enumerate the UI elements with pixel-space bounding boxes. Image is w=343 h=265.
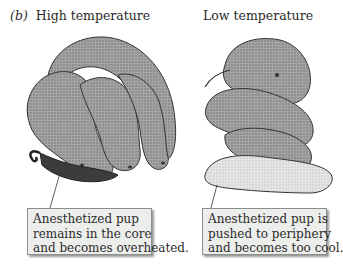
panel-title-high-temperature: (b) High temperature: [10, 8, 150, 23]
high-temperature-title: High temperature: [36, 8, 150, 23]
callout-line: Anesthetized pup: [33, 212, 147, 227]
panel-title-low-temperature: Low temperature: [203, 8, 313, 23]
low-temperature-title: Low temperature: [203, 8, 313, 23]
callout-low-temperature: Anesthetized pup is pushed to periphery …: [202, 208, 327, 255]
callout-line: and becomes too cool.: [208, 241, 322, 256]
callout-line: and becomes overheated.: [33, 241, 147, 256]
panel-label: (b): [10, 8, 28, 23]
high-temperature-huddle-illustration: [0, 25, 185, 215]
callout-line: Anesthetized pup is: [208, 212, 322, 227]
callout-line: remains in the core: [33, 227, 147, 242]
callout-line: pushed to periphery: [208, 227, 322, 242]
low-temperature-huddle-illustration: [195, 25, 340, 215]
callout-high-temperature: Anesthetized pup remains in the core and…: [27, 208, 152, 255]
